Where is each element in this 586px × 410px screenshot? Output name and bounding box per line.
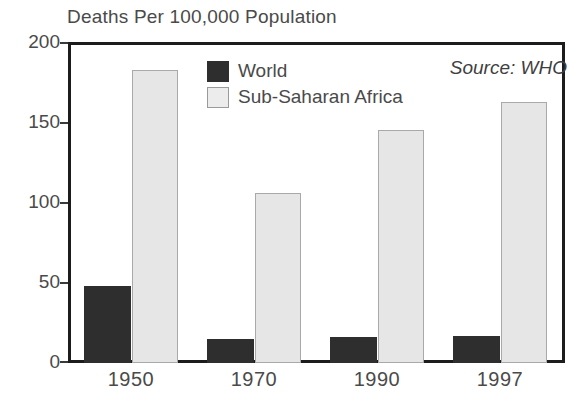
y-tick-label-100: 100	[8, 192, 60, 211]
x-tick-label-1950: 1950	[84, 368, 178, 391]
legend-label-sub-saharan-africa: Sub-Saharan Africa	[238, 86, 403, 108]
y-tick-label-200: 200	[8, 32, 60, 51]
bar-ssa-1970	[255, 193, 301, 363]
legend-item-sub-saharan-africa: Sub-Saharan Africa	[207, 84, 403, 110]
bar-ssa-1997	[501, 102, 547, 363]
x-tick-label-1997: 1997	[453, 368, 547, 391]
bar-ssa-1990	[378, 130, 424, 363]
legend-item-world: World	[207, 58, 403, 84]
bar-world-1950	[84, 286, 131, 363]
bar-chart-figure: Deaths Per 100,000 Population 200 150 10…	[0, 0, 586, 410]
bar-world-1990	[330, 337, 377, 363]
y-tick-label-150: 150	[8, 112, 60, 131]
y-tick-label-50: 50	[8, 272, 60, 291]
bar-ssa-1950	[132, 70, 178, 363]
y-axis: 200 150 100 50 0	[0, 0, 60, 410]
source-note: Source: WHO	[450, 57, 567, 79]
bar-world-1970	[207, 339, 254, 363]
bar-world-1997	[453, 336, 500, 363]
chart-title: Deaths Per 100,000 Population	[67, 6, 337, 28]
y-tick-label-0: 0	[8, 352, 60, 371]
legend-swatch-icon-world	[207, 61, 229, 82]
legend-label-world: World	[238, 60, 287, 82]
legend: World Sub-Saharan Africa	[207, 58, 403, 110]
x-tick-label-1970: 1970	[207, 368, 301, 391]
legend-swatch-icon-sub-saharan-africa	[207, 87, 229, 108]
x-tick-label-1990: 1990	[330, 368, 424, 391]
